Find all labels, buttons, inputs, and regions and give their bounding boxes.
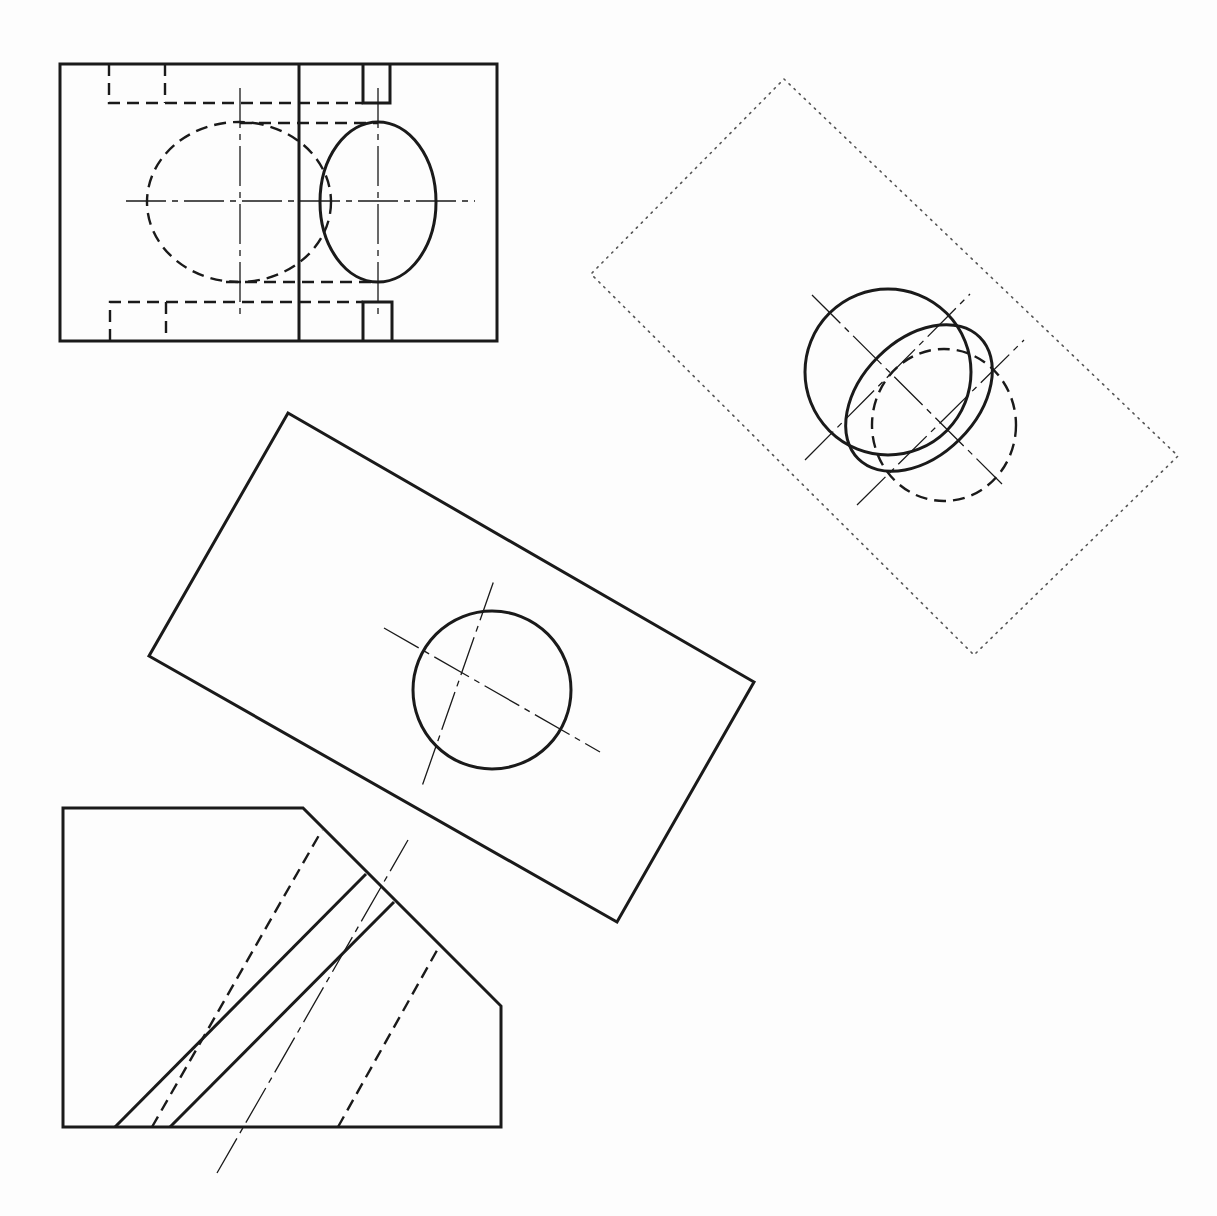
hole-edge-1	[115, 874, 366, 1127]
hidden-slot-bottom	[110, 302, 363, 341]
top-view	[60, 64, 497, 341]
top-view-outline	[60, 64, 497, 341]
rotated-rectangle	[149, 413, 754, 922]
diagonal-centerline-b	[805, 294, 970, 460]
dotted-boundary	[591, 79, 1178, 655]
hidden-line-2	[338, 945, 440, 1127]
front-view	[63, 808, 501, 1173]
primary-auxiliary-view	[149, 413, 754, 922]
visible-inclined-ellipse	[817, 296, 1021, 500]
hidden-ellipse	[872, 349, 1016, 501]
hidden-ellipse	[147, 122, 331, 282]
centerline-long	[384, 628, 600, 752]
hole-centerline	[217, 840, 408, 1173]
small-rect-top	[363, 64, 390, 103]
hidden-line-1	[152, 830, 322, 1127]
hole-edge-2	[170, 902, 394, 1127]
hidden-slot-top	[109, 64, 363, 103]
drawing-canvas: .thick { stroke: #1a1a1a; stroke-width: …	[0, 0, 1217, 1216]
secondary-auxiliary-view	[591, 79, 1178, 655]
small-rect-bottom	[363, 302, 392, 341]
front-view-outline	[63, 808, 501, 1127]
visible-circle	[805, 289, 971, 455]
